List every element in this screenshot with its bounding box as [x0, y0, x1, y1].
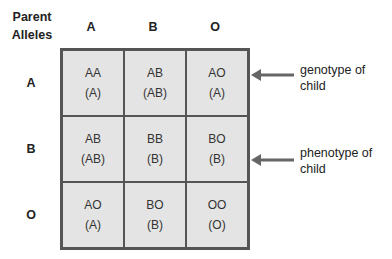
genotype-annotation: genotype of child	[300, 62, 365, 94]
genotype: AO	[84, 195, 101, 215]
genotype: BO	[146, 195, 163, 215]
column-header-a: A	[60, 20, 122, 34]
row-header-b: B	[20, 142, 42, 156]
cell-o-b: BO(B)	[124, 182, 186, 248]
annotation-line1: genotype of	[300, 62, 365, 78]
phenotype: (A)	[85, 83, 101, 103]
cell-a-b: AB(AB)	[124, 50, 186, 116]
phenotype: (A)	[85, 215, 101, 235]
punnett-square: AA(A) AB(AB) AO(A) AB(AB) BB(B) BO(B) AO…	[60, 48, 250, 250]
arrow-left-icon	[251, 69, 295, 81]
annotation-line1: phenotype of	[300, 145, 372, 161]
cell-o-a: AO(A)	[62, 182, 124, 248]
parent-alleles-label: Parent Alleles	[6, 8, 58, 44]
cell-a-o: AO(A)	[186, 50, 248, 116]
phenotype: (AB)	[143, 83, 167, 103]
phenotype: (B)	[147, 215, 163, 235]
cell-b-a: AB(AB)	[62, 116, 124, 182]
phenotype: (B)	[209, 149, 225, 169]
genotype: AA	[85, 63, 101, 83]
genotype: BB	[147, 129, 163, 149]
column-header-b: B	[122, 20, 184, 34]
genotype: AB	[147, 63, 163, 83]
phenotype: (AB)	[81, 149, 105, 169]
phenotype: (O)	[208, 215, 225, 235]
annotation-line2: child	[300, 78, 365, 94]
phenotype: (B)	[147, 149, 163, 169]
corner-label-line2: Alleles	[6, 26, 58, 44]
genotype: BO	[208, 129, 225, 149]
cell-o-o: OO(O)	[186, 182, 248, 248]
phenotype-annotation: phenotype of child	[300, 145, 372, 177]
column-header-o: O	[184, 20, 246, 34]
corner-label-line1: Parent	[6, 8, 58, 26]
genotype: OO	[208, 195, 227, 215]
annotation-line2: child	[300, 161, 372, 177]
row-header-a: A	[20, 76, 42, 90]
genotype: AB	[85, 129, 101, 149]
phenotype: (A)	[209, 83, 225, 103]
cell-b-o: BO(B)	[186, 116, 248, 182]
cell-b-b: BB(B)	[124, 116, 186, 182]
row-header-o: O	[20, 208, 42, 222]
cell-a-a: AA(A)	[62, 50, 124, 116]
arrow-left-icon	[251, 154, 295, 166]
genotype: AO	[208, 63, 225, 83]
